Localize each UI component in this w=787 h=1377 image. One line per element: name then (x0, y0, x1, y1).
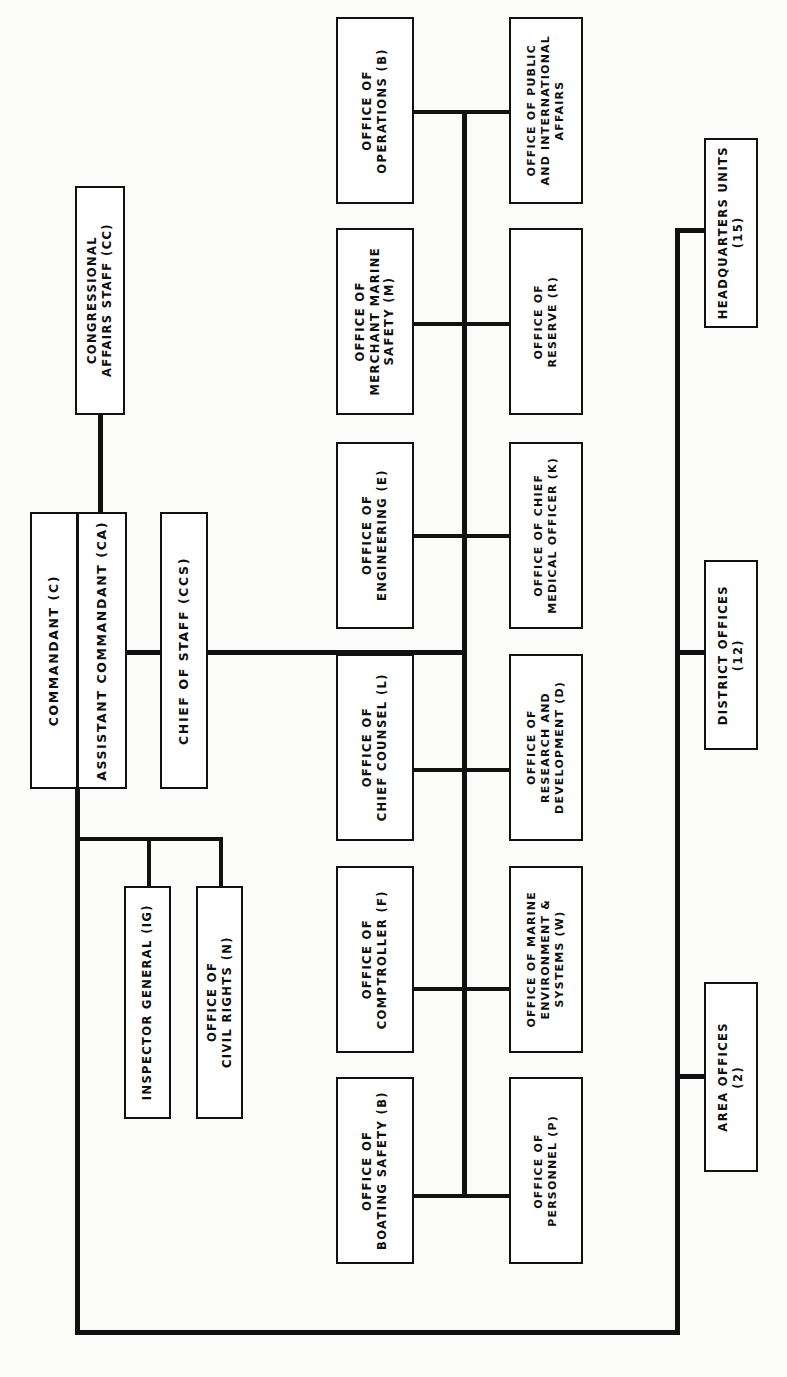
node-label: INSPECTOR GENERAL (IG) (140, 904, 155, 1100)
connector-commandant-branch-stem (75, 788, 80, 840)
node-label: OFFICE OF PERSONNEL (P) (532, 1115, 560, 1227)
node-label: OFFICE OF MARINE ENVIRONMENT & SYSTEMS (… (525, 891, 567, 1028)
node-office-of-public-and-international-affairs[interactable]: OFFICE OF PUBLIC AND INTERNATIONAL AFFAI… (509, 17, 583, 204)
node-office-of-research-and-development[interactable]: OFFICE OF RESEARCH AND DEVELOPMENT (D) (509, 654, 583, 841)
node-label: CONGRESSIONAL AFFAIRS STAFF (CC) (85, 223, 114, 377)
node-label: OFFICE OF ENGINEERING (E) (360, 469, 389, 601)
connector-spine-research-development (462, 768, 510, 772)
node-label: OFFICE OF RESEARCH AND DEVELOPMENT (D) (525, 681, 567, 814)
node-label: OFFICE OF BOATING SAFETY (B) (360, 1091, 389, 1250)
node-label: HEADQUARTERS UNITS (15) (716, 146, 745, 319)
node-congressional-affairs-staff[interactable]: CONGRESSIONAL AFFAIRS STAFF (CC) (75, 186, 125, 415)
node-office-of-comptroller[interactable]: OFFICE OF COMPTROLLER (F) (336, 866, 414, 1053)
connector-bus-civil-rights (219, 837, 223, 887)
node-label: CHIEF OF STAFF (CCS) (176, 557, 192, 745)
connector-bus-district-offices (675, 650, 705, 655)
node-office-of-reserve[interactable]: OFFICE OF RESERVE (R) (509, 228, 583, 415)
node-label: OFFICE OF OPERATIONS (B) (360, 48, 389, 174)
node-area-offices[interactable]: AREA OFFICES (2) (704, 982, 758, 1172)
connector-bus-inspector-general (147, 837, 151, 887)
node-commandant[interactable]: COMMANDANT (C) (30, 512, 78, 789)
connector-spine-personnel (462, 1194, 510, 1198)
connector-spine-merchant-marine-safety (412, 322, 467, 326)
node-assistant-commandant[interactable]: ASSISTANT COMMANDANT (CA) (77, 512, 127, 789)
staff-office-spine (462, 110, 467, 1198)
connector-bus-headquarters-units (675, 228, 705, 233)
connector-spine-comptroller (412, 987, 467, 991)
node-label: ASSISTANT COMMANDANT (CA) (94, 521, 110, 781)
node-label: COMMANDANT (C) (46, 575, 62, 726)
connector-field-units-bus-horizontal (75, 1330, 680, 1335)
node-headquarters-units[interactable]: HEADQUARTERS UNITS (15) (704, 138, 758, 328)
connector-spine-marine-environment-systems (462, 987, 510, 991)
node-office-of-operations[interactable]: OFFICE OF OPERATIONS (B) (336, 17, 414, 204)
node-label: DISTRICT OFFICES (12) (716, 585, 745, 725)
node-office-of-engineering[interactable]: OFFICE OF ENGINEERING (E) (336, 442, 414, 629)
connector-spine-engineering (412, 534, 467, 538)
node-inspector-general[interactable]: INSPECTOR GENERAL (IG) (124, 886, 171, 1119)
connector-spine-chief-medical-officer (462, 534, 510, 538)
node-office-of-civil-rights[interactable]: OFFICE OF CIVIL RIGHTS (N) (196, 886, 243, 1119)
connector-bus-area-offices (675, 1074, 705, 1079)
node-office-of-chief-counsel[interactable]: OFFICE OF CHIEF COUNSEL (L) (336, 654, 414, 841)
org-chart-canvas: CONGRESSIONAL AFFAIRS STAFF (CC) COMMAND… (0, 0, 787, 1377)
connector-spine-boating-safety (412, 1194, 467, 1198)
node-label: OFFICE OF MERCHANT MARINE SAFETY (M) (353, 247, 397, 396)
connector-spine-public-international-affairs (462, 110, 510, 114)
node-label: OFFICE OF PUBLIC AND INTERNATIONAL AFFAI… (525, 35, 567, 185)
node-label: OFFICE OF COMPTROLLER (F) (360, 890, 389, 1029)
node-label: OFFICE OF CIVIL RIGHTS (N) (205, 936, 234, 1068)
node-office-of-personnel[interactable]: OFFICE OF PERSONNEL (P) (509, 1077, 583, 1264)
node-office-of-boating-safety[interactable]: OFFICE OF BOATING SAFETY (B) (336, 1077, 414, 1264)
node-label: AREA OFFICES (2) (716, 1022, 745, 1132)
node-district-offices[interactable]: DISTRICT OFFICES (12) (704, 560, 758, 750)
connector-congressional-to-assistant-commandant (98, 414, 103, 514)
node-chief-of-staff[interactable]: CHIEF OF STAFF (CCS) (160, 512, 208, 789)
node-office-of-merchant-marine-safety[interactable]: OFFICE OF MERCHANT MARINE SAFETY (M) (336, 228, 414, 415)
connector-commandant-to-field-bus-vertical (75, 837, 80, 1334)
connector-spine-chief-counsel (412, 768, 467, 772)
node-label: OFFICE OF CHIEF MEDICAL OFFICER (K) (532, 457, 560, 614)
node-office-of-marine-environment-and-systems[interactable]: OFFICE OF MARINE ENVIRONMENT & SYSTEMS (… (509, 866, 583, 1053)
connector-spine-operations (412, 110, 467, 114)
node-label: OFFICE OF RESERVE (R) (532, 276, 560, 367)
node-label: OFFICE OF CHIEF COUNSEL (L) (360, 673, 389, 821)
connector-spine-reserve (462, 322, 510, 326)
node-office-of-chief-medical-officer[interactable]: OFFICE OF CHIEF MEDICAL OFFICER (K) (509, 442, 583, 629)
connector-field-units-bus-vertical (675, 228, 680, 1335)
